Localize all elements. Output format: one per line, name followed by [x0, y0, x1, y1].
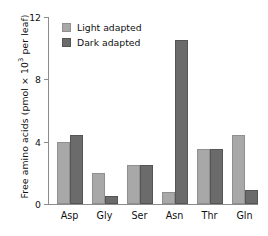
y-axis-tick-mark	[44, 17, 49, 18]
y-axis-tick-label: 0	[35, 199, 41, 210]
y-axis-tick-mark	[44, 204, 49, 205]
legend-item: Light adapted	[62, 21, 142, 34]
bar	[105, 196, 118, 204]
bar	[197, 149, 210, 204]
y-axis-tick-label: 12	[29, 12, 41, 23]
legend-swatch	[62, 38, 71, 47]
bar-group	[197, 17, 223, 204]
bar	[57, 142, 70, 204]
y-axis-tick-mark	[44, 142, 49, 143]
x-axis-tick-label: Gln	[222, 210, 268, 221]
y-axis-title: Free amino acids (pmol × 103 per leaf)	[19, 9, 30, 205]
bar	[127, 165, 140, 204]
y-axis-tick-label: 8	[35, 74, 41, 85]
bar	[92, 173, 105, 204]
y-axis-title-prefix: Free amino acids (pmol × 10	[19, 62, 30, 199]
bar	[232, 135, 245, 204]
legend-item: Dark adapted	[62, 36, 142, 49]
bar	[162, 192, 175, 204]
legend-label: Dark adapted	[77, 37, 140, 48]
bar	[210, 149, 223, 204]
bar-group	[162, 17, 188, 204]
bar	[140, 165, 153, 204]
y-axis-line	[48, 17, 49, 204]
chart-legend: Light adaptedDark adapted	[62, 21, 142, 51]
y-axis-title-exponent: 3	[17, 58, 25, 62]
y-axis-title-suffix: per leaf)	[19, 14, 30, 57]
y-axis-tick-mark	[44, 79, 49, 80]
legend-swatch	[62, 23, 71, 32]
bar	[70, 135, 83, 204]
x-axis-line	[48, 204, 258, 205]
y-axis-tick-label: 4	[35, 136, 41, 147]
bar-group	[232, 17, 258, 204]
bar-chart: Free amino acids (pmol × 103 per leaf) 0…	[0, 0, 268, 236]
bar	[175, 40, 188, 204]
legend-label: Light adapted	[77, 22, 142, 33]
bar	[245, 190, 258, 204]
